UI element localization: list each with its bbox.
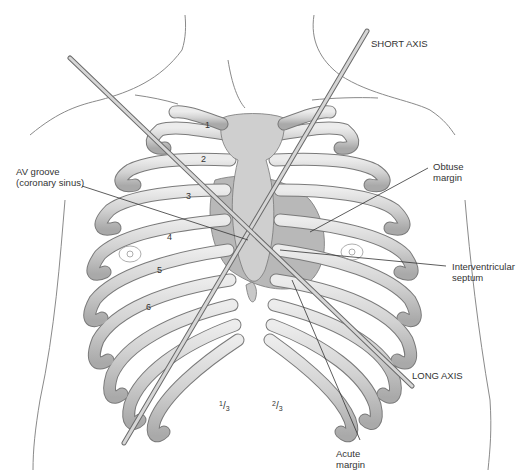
rib-number-6: 6	[146, 302, 151, 312]
chest-illustration	[0, 0, 526, 475]
rib-number-2: 2	[201, 154, 206, 164]
ribs-right	[90, 128, 238, 436]
rib-number-4: 4	[167, 232, 172, 242]
fraction-one-third: 1/3	[219, 400, 230, 412]
fraction-two-thirds: 2/3	[272, 400, 283, 412]
short-axis-rod	[124, 31, 367, 443]
short-axis-label: SHORT AXIS	[371, 38, 428, 49]
long-axis-label: LONG AXIS	[412, 370, 463, 381]
interventricular-septum-label: Interventricular septum	[452, 261, 515, 283]
rib-number-5: 5	[157, 265, 162, 275]
acute-margin-label: Acute margin	[336, 448, 365, 470]
obtuse-margin-label: Obtuse margin	[433, 161, 464, 183]
rib-number-1: 1	[205, 120, 210, 130]
rib-number-3: 3	[186, 191, 191, 201]
ribs-left	[270, 128, 415, 436]
av-groove-label: AV groove (coronary sinus)	[16, 166, 84, 188]
